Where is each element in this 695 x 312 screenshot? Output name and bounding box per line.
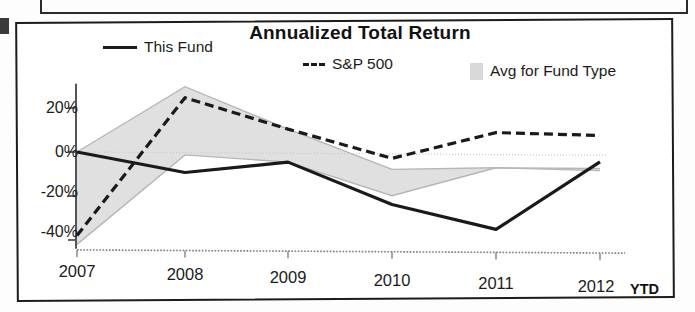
x-tick-label-2012: 2012 xyxy=(566,277,626,296)
x-tick-label-2011: 2011 xyxy=(466,274,526,293)
x-tick-label-2010: 2010 xyxy=(362,271,422,290)
x-tick-label-2007: 2007 xyxy=(47,262,107,281)
y-tick-label-neg20: -20% xyxy=(16,183,78,201)
x-axis-ytd-note: YTD xyxy=(630,281,659,297)
y-tick-label-0: 0% xyxy=(16,143,78,161)
chart-screenshot: Annualized Total Return This Fund S&P 50… xyxy=(0,0,695,312)
x-tick-label-2009: 2009 xyxy=(258,268,318,287)
y-tick-label-20: 20% xyxy=(16,99,78,117)
y-tick-label-neg40: -40% xyxy=(16,223,78,241)
x-tick-label-2008: 2008 xyxy=(155,265,215,284)
